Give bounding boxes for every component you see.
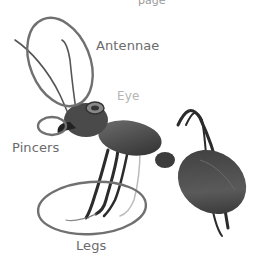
label-antennae: Antennae <box>96 38 159 53</box>
ant-anatomy-diagram: page <box>0 0 261 262</box>
label-pincers: Pincers <box>12 140 59 155</box>
label-eye: Eye <box>117 89 139 103</box>
label-legs: Legs <box>76 238 106 253</box>
antennae-outline <box>15 8 105 116</box>
